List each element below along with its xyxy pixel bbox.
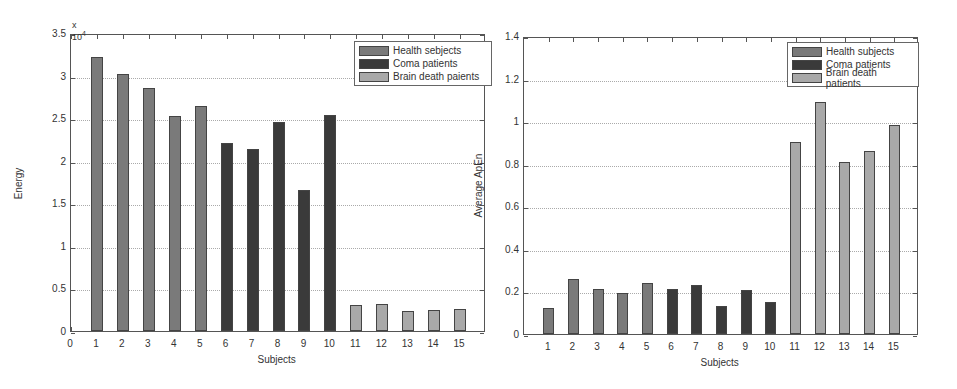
x-tick-label: 5 [636, 342, 656, 352]
x-tick [460, 35, 461, 39]
x-tick [746, 38, 747, 42]
bar-brain_death [864, 151, 875, 334]
plot-area: Health sebjectsComa patientsBrain death … [70, 34, 485, 332]
y-tick-label: 1 [36, 242, 66, 252]
x-tick-label: 4 [164, 339, 184, 349]
x-tick [598, 38, 599, 42]
x-tick-label: 13 [834, 342, 854, 352]
gridline [524, 293, 917, 294]
legend-swatch [359, 46, 389, 56]
gridline [524, 208, 917, 209]
y-tick-label: 0 [36, 327, 66, 337]
x-tick-label: 7 [242, 339, 262, 349]
y-tick-label: 1.4 [489, 32, 519, 42]
y-tick [71, 163, 75, 164]
y-tick-label: 3.5 [36, 29, 66, 39]
y-tick [524, 293, 528, 294]
x-tick-label: 2 [562, 342, 582, 352]
bar-health [169, 116, 181, 331]
y-tick-label: 0.5 [36, 284, 66, 294]
x-tick [408, 35, 409, 39]
x-tick [97, 35, 98, 39]
bar-brain_death [815, 102, 826, 334]
y-tick [913, 293, 917, 294]
y-axis-title: Energy [13, 144, 24, 224]
x-tick [356, 35, 357, 39]
x-tick [253, 35, 254, 39]
y-axis-title: Average ApEn [473, 146, 484, 226]
bar-brain_death [454, 309, 466, 331]
y-tick [913, 336, 917, 337]
y-tick-label: 1 [489, 117, 519, 127]
x-tick-label: 14 [423, 339, 443, 349]
bar-coma [741, 290, 752, 334]
x-tick-label: 9 [293, 339, 313, 349]
x-tick-label: 15 [883, 342, 903, 352]
x-tick [201, 35, 202, 39]
y-tick [524, 208, 528, 209]
x-tick [227, 35, 228, 39]
bar-health [143, 88, 155, 332]
legend: Health sebjectsComa patientsBrain death … [354, 41, 492, 86]
y-tick [524, 336, 528, 337]
gridline [524, 251, 917, 252]
bar-coma [716, 306, 727, 334]
y-tick [524, 123, 528, 124]
legend-label: Health subjects [826, 46, 894, 57]
y-tick-label: 0 [489, 330, 519, 340]
x-tick [123, 35, 124, 39]
y-tick [480, 333, 484, 334]
bar-health [617, 293, 628, 335]
y-tick [480, 248, 484, 249]
legend: Health subjectsComa patientsBrain death … [787, 42, 919, 87]
x-tick [149, 35, 150, 39]
legend-swatch [359, 72, 389, 82]
x-tick-label: 2 [112, 339, 132, 349]
plot-area: Health subjectsComa patientsBrain death … [523, 37, 918, 335]
bar-brain_death [428, 310, 440, 331]
legend-swatch [792, 73, 822, 83]
y-tick [913, 208, 917, 209]
y-tick [913, 251, 917, 252]
x-tick [279, 35, 280, 39]
bar-health [568, 279, 579, 334]
x-tick-label: 4 [612, 342, 632, 352]
y-tick [480, 290, 484, 291]
x-tick [549, 38, 550, 42]
multiplier-exponent: 4 [82, 30, 86, 37]
legend-label: Health sebjects [393, 45, 461, 56]
legend-item-brain_death: Brain death patients [792, 71, 914, 84]
y-tick [524, 38, 528, 39]
x-tick-label: 9 [735, 342, 755, 352]
x-tick-label: 10 [760, 342, 780, 352]
bar-health [117, 74, 129, 331]
gridline [524, 166, 917, 167]
x-tick-label: 11 [785, 342, 805, 352]
x-tick-label: 10 [319, 339, 339, 349]
y-tick [480, 35, 484, 36]
x-tick-label: 14 [859, 342, 879, 352]
x-tick [434, 35, 435, 39]
bar-coma [667, 289, 678, 334]
y-tick [71, 78, 75, 79]
y-tick [71, 290, 75, 291]
bar-health [642, 283, 653, 334]
x-tick-label: 5 [190, 339, 210, 349]
x-tick-label: 8 [711, 342, 731, 352]
bar-health [593, 289, 604, 334]
bar-coma [298, 190, 310, 331]
x-tick [175, 35, 176, 39]
x-tick-label: 8 [268, 339, 288, 349]
x-tick [697, 38, 698, 42]
y-axis-multiplier: x 104 [72, 20, 86, 42]
x-tick [71, 327, 72, 331]
bar-brain_death [350, 305, 362, 331]
x-tick-label: 15 [449, 339, 469, 349]
x-tick-label: 12 [371, 339, 391, 349]
x-tick-label: 3 [587, 342, 607, 352]
y-tick-label: 3 [36, 72, 66, 82]
gridline [71, 120, 484, 121]
x-tick-label: 6 [661, 342, 681, 352]
x-tick [647, 38, 648, 42]
legend-item-health: Health sebjects [359, 44, 487, 57]
